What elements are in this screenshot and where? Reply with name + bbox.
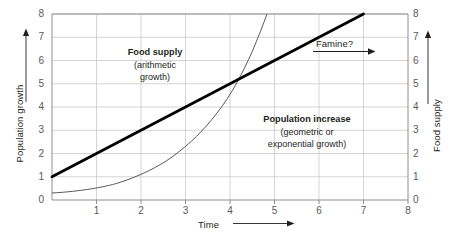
ytick-right-4: 4 (413, 101, 425, 112)
chart-canvas (0, 0, 450, 238)
ytick-left-7: 7 (32, 31, 44, 42)
ytick-left-6: 6 (32, 55, 44, 66)
xtick-4: 4 (223, 205, 237, 216)
food-supply-annotation-head: Food supply (95, 46, 215, 59)
xtick-1: 1 (90, 205, 104, 216)
x-tick-marks (97, 200, 409, 204)
ytick-left-5: 5 (32, 78, 44, 89)
famine-arrow-icon (313, 48, 376, 54)
famine-annotation: Famine? (316, 38, 353, 49)
x-axis-title: Time (198, 219, 219, 230)
ytick-right-0: 0 (413, 194, 425, 205)
grid-lines (52, 14, 408, 200)
ytick-left-0: 0 (32, 194, 44, 205)
ytick-right-8: 8 (413, 8, 425, 19)
time-axis-right-arrow-icon (233, 220, 295, 226)
xtick-6: 6 (312, 205, 326, 216)
ytick-right-3: 3 (413, 124, 425, 135)
figure-caption (0, 233, 450, 238)
food-supply-annotation-line2: growth) (95, 71, 215, 84)
y-axis-title-left: Population growth (14, 69, 25, 179)
xtick-5: 5 (268, 205, 282, 216)
xtick-3: 3 (179, 205, 193, 216)
population-increase-annotation-head: Population increase (232, 113, 382, 126)
population-increase-annotation-line1: (geometric or (232, 126, 382, 139)
ytick-right-5: 5 (413, 78, 425, 89)
ytick-right-1: 1 (413, 171, 425, 182)
xtick-7: 7 (357, 205, 371, 216)
y-axis-title-right: Food supply (431, 71, 442, 181)
ytick-right-7: 7 (413, 31, 425, 42)
population-increase-curve (52, 14, 267, 193)
ytick-left-8: 8 (32, 8, 44, 19)
xtick-2: 2 (134, 205, 148, 216)
food-supply-annotation: Food supply (arithmetic growth) (95, 46, 215, 84)
xtick-8: 8 (401, 205, 415, 216)
malthus-growth-chart: 8 7 6 5 4 3 2 1 0 8 7 6 5 4 3 2 1 0 1 2 … (0, 0, 450, 238)
food-supply-annotation-line1: (arithmetic (95, 59, 215, 72)
ytick-right-2: 2 (413, 148, 425, 159)
ytick-left-3: 3 (32, 124, 44, 135)
ytick-left-4: 4 (32, 101, 44, 112)
population-increase-annotation: Population increase (geometric or expone… (232, 113, 382, 151)
ytick-left-2: 2 (32, 148, 44, 159)
ytick-right-6: 6 (413, 55, 425, 66)
population-increase-annotation-line2: exponential growth) (232, 138, 382, 151)
ytick-left-1: 1 (32, 171, 44, 182)
